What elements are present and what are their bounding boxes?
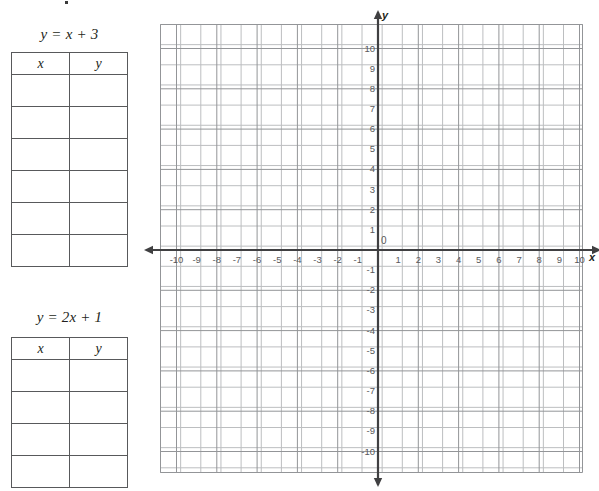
coordinate-plane[interactable]: -10-9-8-7-6-5-4-3-2-11234567891010987654…: [160, 24, 583, 473]
equation-text-2: y = 2x + 1: [37, 309, 103, 325]
y-tick-label: -1: [353, 265, 375, 275]
y-tick-label: -5: [353, 346, 375, 356]
table-row[interactable]: [12, 424, 128, 456]
cell-y[interactable]: [70, 235, 128, 267]
y-tick-label: -3: [353, 305, 375, 315]
table-row[interactable]: [12, 203, 128, 235]
y-tick-label: -2: [353, 285, 375, 295]
origin-label: 0: [381, 236, 387, 246]
table-header-row: x y: [12, 53, 128, 75]
cell-x[interactable]: [12, 392, 70, 424]
equation-label-1: y = x + 3: [11, 26, 128, 43]
cell-y[interactable]: [70, 75, 128, 107]
value-table-2[interactable]: x y: [11, 337, 128, 488]
cell-x[interactable]: [12, 235, 70, 267]
table-header-row: x y: [12, 338, 128, 360]
y-tick-label: -9: [353, 426, 375, 436]
table-row[interactable]: [12, 107, 128, 139]
table-row[interactable]: [12, 75, 128, 107]
x-axis-label: x: [589, 252, 595, 263]
cell-x[interactable]: [12, 171, 70, 203]
y-tick-label: -10: [353, 447, 375, 457]
cell-y[interactable]: [70, 203, 128, 235]
table-row[interactable]: [12, 235, 128, 267]
column-header-y: y: [70, 53, 128, 75]
table-row[interactable]: [12, 392, 128, 424]
table-row[interactable]: [12, 360, 128, 392]
y-tick-label: -8: [353, 406, 375, 416]
value-table-1[interactable]: x y: [11, 52, 128, 267]
table-row[interactable]: [12, 171, 128, 203]
cell-x[interactable]: [12, 203, 70, 235]
cell-x[interactable]: [12, 360, 70, 392]
cell-y[interactable]: [70, 456, 128, 488]
y-tick-label: 3: [353, 185, 375, 195]
scan-artifact-speck: [65, 1, 68, 4]
y-tick-label: -4: [353, 326, 375, 336]
y-axis-label: y: [382, 10, 388, 21]
column-header-y: y: [70, 338, 128, 360]
y-tick-label: 7: [353, 104, 375, 114]
y-tick-label: 4: [353, 164, 375, 174]
cell-x[interactable]: [12, 424, 70, 456]
table-row[interactable]: [12, 456, 128, 488]
cell-y[interactable]: [70, 424, 128, 456]
cell-y[interactable]: [70, 171, 128, 203]
cell-y[interactable]: [70, 139, 128, 171]
table-row[interactable]: [12, 139, 128, 171]
column-header-x: x: [12, 53, 70, 75]
y-tick-label: -6: [353, 366, 375, 376]
cell-y[interactable]: [70, 360, 128, 392]
cell-y[interactable]: [70, 392, 128, 424]
y-tick-label: 9: [353, 64, 375, 74]
equation-label-2: y = 2x + 1: [11, 309, 128, 326]
y-tick-label: 8: [353, 84, 375, 94]
y-tick-label: 2: [353, 205, 375, 215]
y-tick-label: -7: [353, 386, 375, 396]
x-tick-label: 10: [568, 255, 592, 265]
cell-x[interactable]: [12, 139, 70, 171]
y-tick-label: 6: [353, 124, 375, 134]
cell-x[interactable]: [12, 107, 70, 139]
column-header-x: x: [12, 338, 70, 360]
x-tick-label: -1: [346, 255, 370, 265]
y-tick-label: 5: [353, 144, 375, 154]
cell-x[interactable]: [12, 456, 70, 488]
equation-text-1: y = x + 3: [41, 26, 99, 42]
y-tick-label: 10: [353, 44, 375, 54]
cell-x[interactable]: [12, 75, 70, 107]
cell-y[interactable]: [70, 107, 128, 139]
y-tick-label: 1: [353, 225, 375, 235]
